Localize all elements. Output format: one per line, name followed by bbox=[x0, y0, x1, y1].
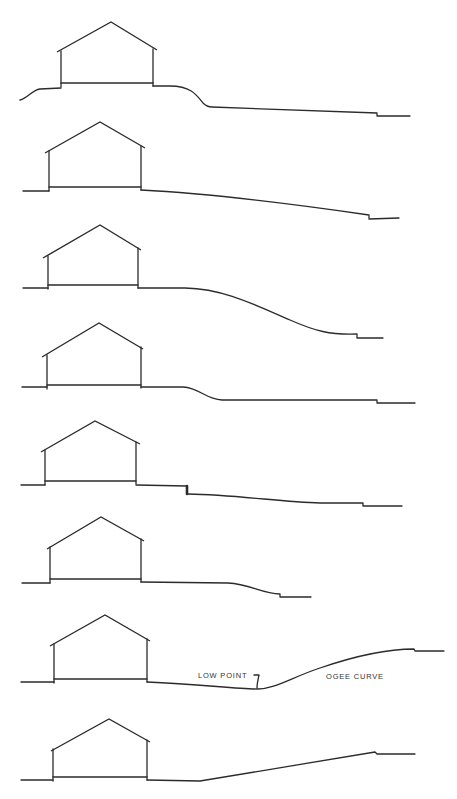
section-6 bbox=[22, 517, 311, 597]
house-roof bbox=[51, 719, 150, 751]
ground-right-lower bbox=[188, 494, 402, 506]
house-walls bbox=[50, 539, 141, 583]
ground-right bbox=[153, 86, 410, 116]
house-walls bbox=[45, 442, 136, 485]
ground-right bbox=[141, 582, 311, 597]
house-roof bbox=[41, 421, 140, 452]
house-roof bbox=[45, 122, 145, 153]
house-walls bbox=[54, 639, 147, 683]
house-roof bbox=[57, 22, 157, 52]
section-8 bbox=[21, 719, 415, 781]
ground-right bbox=[141, 387, 415, 403]
section-2 bbox=[23, 122, 399, 219]
house-walls bbox=[48, 248, 138, 289]
ground-right bbox=[136, 485, 187, 486]
section-1 bbox=[20, 22, 410, 116]
site-grading-sections-diagram: LOW POINTOGEE CURVE bbox=[0, 0, 457, 799]
low-point-arrow-icon bbox=[254, 675, 259, 688]
house-walls bbox=[49, 146, 141, 191]
ground-right bbox=[147, 752, 415, 781]
ogee-curve-label: OGEE CURVE bbox=[326, 672, 384, 681]
section-7: LOW POINTOGEE CURVE bbox=[21, 615, 444, 689]
ground-right bbox=[141, 190, 399, 219]
ground-right bbox=[147, 649, 444, 689]
house-walls bbox=[53, 740, 147, 781]
house-walls bbox=[47, 347, 141, 389]
ground-right bbox=[138, 288, 383, 338]
house-roof bbox=[42, 323, 143, 357]
house-walls bbox=[61, 49, 153, 87]
section-3 bbox=[23, 225, 383, 338]
ground-left bbox=[20, 88, 61, 100]
house-roof bbox=[50, 615, 150, 646]
section-4 bbox=[22, 323, 415, 403]
low-point-label: LOW POINT bbox=[198, 671, 247, 680]
house-roof bbox=[43, 225, 141, 258]
house-roof bbox=[47, 517, 144, 549]
section-5 bbox=[21, 421, 402, 506]
